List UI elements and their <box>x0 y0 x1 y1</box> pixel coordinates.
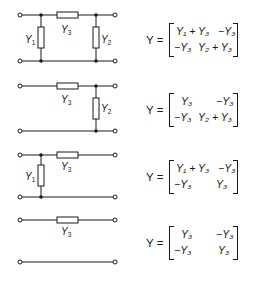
label-y2: Y2 <box>101 103 112 115</box>
admittance-matrix-3: Y = Y₁ + Y₃ −Y₃ −Y₃ Y₃ <box>146 160 256 196</box>
right-bracket <box>233 226 238 260</box>
matrix-cell-21: −Y₃ <box>174 178 191 190</box>
matrix-cell-11: Y₃ <box>181 95 192 107</box>
matrix-lhs: Y = <box>146 104 163 116</box>
admittance-matrix-1: Y = Y₁ + Y₃ −Y₃ −Y₃ Y₂ + Y₃ <box>146 23 256 59</box>
matrix-cell-12: −Y₃ <box>216 95 233 107</box>
matrix-cell-21: −Y₃ <box>174 41 191 53</box>
label-y1: Y1 <box>25 171 36 183</box>
label-y3: Y3 <box>61 24 72 36</box>
matrix-cell-22: Y₂ + Y₃ <box>198 111 232 123</box>
matrix-cell-11: Y₁ + Y₃ <box>176 162 209 174</box>
matrix-cell-21: −Y₃ <box>174 244 191 256</box>
label-y3: Y3 <box>61 226 72 238</box>
matrix-cell-11: Y₁ + Y₃ <box>176 25 209 37</box>
right-bracket <box>233 160 238 194</box>
admittance-matrix-4: Y = Y₃ −Y₃ −Y₃ Y₃ <box>146 226 256 262</box>
label-y3: Y3 <box>61 161 72 173</box>
label-y2: Y2 <box>101 34 112 46</box>
matrix-lhs: Y = <box>146 34 163 46</box>
matrix-cell-12: −Y₃ <box>216 228 233 240</box>
matrix-cell-22: Y₃ <box>218 244 229 256</box>
label-y3: Y3 <box>61 94 72 106</box>
matrix-lhs: Y = <box>146 237 163 249</box>
matrix-lhs: Y = <box>146 171 163 183</box>
right-bracket <box>233 23 238 57</box>
matrix-cell-22: Y₃ <box>216 178 227 190</box>
admittance-matrix-2: Y = Y₃ −Y₃ −Y₃ Y₂ + Y₃ <box>146 93 256 129</box>
network-4 <box>18 217 117 264</box>
matrix-cell-22: Y₂ + Y₃ <box>198 41 232 53</box>
right-bracket <box>233 93 238 127</box>
matrix-cell-21: −Y₃ <box>174 111 191 123</box>
label-y1: Y1 <box>25 34 36 46</box>
matrix-cell-11: Y₃ <box>181 228 192 240</box>
